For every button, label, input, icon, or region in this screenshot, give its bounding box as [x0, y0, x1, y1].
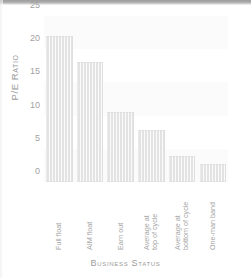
category-slot: AIM float — [75, 184, 106, 254]
y-axis-tick-label: 15 — [18, 66, 40, 76]
bar-slot — [167, 16, 198, 182]
x-axis-category-labels: Full floatAIM floatEarn outAverage at to… — [44, 184, 228, 254]
bar-slot — [136, 16, 167, 182]
plot-area: 0510152025 — [44, 16, 228, 182]
bar-slot — [105, 16, 136, 182]
bar — [138, 130, 164, 182]
category-slot: Earn out — [105, 184, 136, 254]
y-axis-tick-label: 10 — [18, 100, 40, 110]
bar — [46, 36, 72, 182]
x-axis-title: Business Status — [0, 258, 251, 268]
category-slot: Average at bottom of cycle — [167, 184, 198, 254]
category-slot: Average at top of cycle — [136, 184, 167, 254]
bar-chart-figure: P/E Ratio 0510152025 Full floatAIM float… — [0, 0, 251, 278]
category-label: One-man band — [209, 184, 217, 250]
y-axis-tick-label: 0 — [18, 166, 40, 176]
bar-series — [44, 16, 228, 182]
y-axis-tick-label: 5 — [18, 133, 40, 143]
bar-slot — [44, 16, 75, 182]
category-label: Earn out — [117, 184, 125, 250]
category-label: Average at bottom of cycle — [174, 184, 190, 250]
y-axis-tick-label: 25 — [18, 0, 40, 10]
category-label: Average at top of cycle — [143, 184, 159, 250]
category-label: Full float — [55, 184, 63, 250]
y-axis-tick-label: 20 — [18, 33, 40, 43]
category-slot: Full float — [44, 184, 75, 254]
category-slot: One-man band — [197, 184, 228, 254]
bar — [77, 62, 103, 182]
bar — [169, 156, 195, 182]
category-label: AIM float — [86, 184, 94, 250]
bar — [107, 112, 133, 182]
bar-slot — [75, 16, 106, 182]
bar-slot — [197, 16, 228, 182]
bar — [200, 164, 226, 182]
